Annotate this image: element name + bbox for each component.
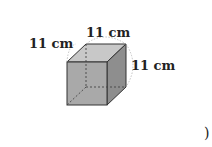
cube-diagram: 11 cm 11 cm 11 cm ) (0, 0, 212, 147)
closing-parenthesis: ) (204, 125, 209, 141)
label-left-edge: 11 cm (29, 36, 74, 51)
cube-front-face (67, 62, 107, 105)
label-right-edge: 11 cm (131, 58, 176, 73)
label-top-edge: 11 cm (86, 25, 131, 40)
